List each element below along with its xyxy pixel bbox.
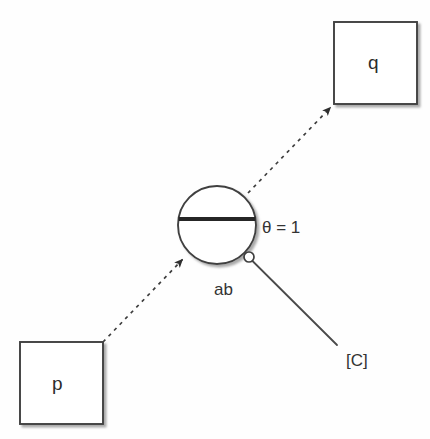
transition-ab-circle[interactable] <box>178 186 256 264</box>
transition-ab[interactable] <box>178 186 256 264</box>
place-q-label: q <box>368 53 379 72</box>
transition-ab-label: ab <box>214 281 233 298</box>
context-connector-line <box>253 261 338 345</box>
arc-transition-to-q-line <box>248 108 331 194</box>
context-port-handle[interactable] <box>244 252 254 262</box>
arc-transition-to-q <box>248 108 331 194</box>
diagram-canvas: p q θ = 1 ab [C] <box>0 0 430 439</box>
context-connector <box>253 261 338 345</box>
context-port-handle-circle[interactable] <box>244 252 254 262</box>
context-port-label: [C] <box>346 352 368 369</box>
arc-p-to-transition <box>103 260 183 343</box>
place-p-label: p <box>52 374 63 393</box>
guard-condition-label: θ = 1 <box>262 219 300 236</box>
arc-p-to-transition-line <box>103 260 183 343</box>
diagram-svg <box>0 0 430 439</box>
